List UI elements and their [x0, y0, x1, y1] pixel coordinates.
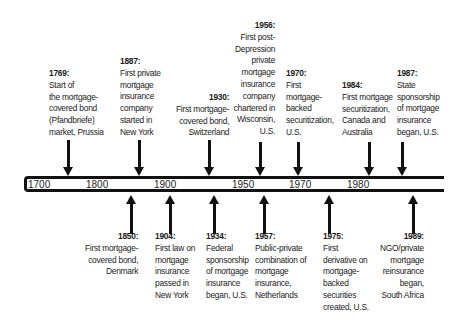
event-text-line: company: [120, 103, 161, 115]
event-text-line: New York: [120, 127, 161, 139]
tick-1950: 1950: [232, 178, 254, 190]
event-text-line: Switzerland: [176, 127, 229, 139]
arrow-down-icon: [297, 142, 300, 169]
event-text-line: Depression: [234, 44, 275, 56]
event-text-line: mortgage-: [323, 266, 369, 278]
arrow-up-icon: [328, 202, 331, 234]
arrow-up-icon: [263, 202, 266, 234]
arrow-up-icon: [412, 202, 415, 234]
event-1956: 1956: First post- Depression private mor…: [234, 20, 275, 138]
event-text-line: insurance: [234, 79, 275, 91]
arrow-up-icon: [213, 202, 216, 234]
event-text-line: First mortgage: [342, 92, 393, 104]
event-text-line: began, U.S.: [397, 127, 440, 139]
event-text-line: insurance,: [255, 278, 306, 290]
arrow-down-icon: [259, 142, 262, 169]
event-year: 1957:: [255, 231, 306, 243]
event-text-line: securities: [323, 290, 369, 302]
event-year: 1970:: [286, 68, 334, 80]
event-text-line: insurance: [206, 278, 249, 290]
event-1975: 1975: First derivative on mortgage- back…: [323, 231, 369, 314]
event-text-line: securitization,: [342, 104, 393, 116]
tick-1800: 1800: [86, 178, 108, 190]
event-text-line: passed in: [155, 278, 195, 290]
arrow-down-icon: [401, 142, 404, 169]
event-text-line: covered bond: [49, 103, 104, 115]
arrow-down-icon: [67, 140, 70, 169]
event-text-line: First: [323, 243, 369, 255]
tick-1900: 1900: [154, 178, 176, 190]
event-text-line: Federal: [206, 243, 249, 255]
arrow-up-icon: [130, 202, 133, 234]
event-text-line: backed: [286, 103, 334, 115]
event-year: 1975:: [323, 231, 369, 243]
event-1904: 1904: First law on mortgage insurance pa…: [155, 231, 195, 302]
event-text-line: began, U.S.: [206, 290, 249, 302]
tick-1970: 1970: [289, 178, 311, 190]
event-text-line: company: [234, 91, 275, 103]
event-1769: 1769: Start of the mortgage- covered bon…: [49, 68, 104, 139]
event-text-line: sponsorship: [397, 92, 440, 104]
event-text-line: insurance: [397, 115, 440, 127]
event-text-line: combination of: [255, 255, 306, 267]
event-1970: 1970: First mortgage- backed securitizat…: [286, 68, 334, 139]
event-text-line: of mortgage: [206, 266, 249, 278]
event-1850: 1850: First mortgage- covered bond, Denm…: [85, 231, 138, 278]
event-year: 1934:: [206, 231, 249, 243]
event-text-line: began,: [380, 278, 424, 290]
event-year: 1850:: [85, 231, 138, 243]
event-text-line: U.S.: [234, 126, 275, 138]
event-text-line: First post-: [234, 32, 275, 44]
event-text-line: sponsorship: [206, 255, 249, 267]
arrow-down-icon: [208, 140, 211, 169]
event-year: 1904:: [155, 231, 195, 243]
event-text-line: Canada and: [342, 115, 393, 127]
event-text-line: First private: [120, 68, 161, 80]
event-year: 1984:: [342, 80, 393, 92]
event-text-line: of mortgage: [397, 103, 440, 115]
event-text-line: chartered in: [234, 103, 275, 115]
event-1984: 1984: First mortgage securitization, Can…: [342, 80, 393, 139]
event-text-line: Denmark: [85, 266, 138, 278]
tick-1980: 1980: [347, 178, 369, 190]
event-text-line: Australia: [342, 127, 393, 139]
event-text-line: the mortgage-: [49, 92, 104, 104]
event-text-line: market, Prussia: [49, 127, 104, 139]
event-text-line: South Africa: [380, 290, 424, 302]
event-text-line: covered bond,: [85, 255, 138, 267]
event-1887: 1887: First private mortgage insurance c…: [120, 56, 161, 139]
event-text-line: mortgage-: [286, 92, 334, 104]
event-year: 1956:: [234, 20, 275, 32]
arrow-down-icon: [138, 140, 141, 169]
event-text-line: insurance: [155, 266, 195, 278]
event-1987: 1987: State sponsorship of mortgage insu…: [397, 68, 440, 139]
event-text-line: NGO/private: [380, 243, 424, 255]
event-text-line: First mortgage-: [85, 243, 138, 255]
event-text-line: Start of: [49, 80, 104, 92]
event-text-line: covered bond,: [176, 116, 229, 128]
event-year: 1930:: [176, 92, 229, 104]
event-text-line: First mortgage-: [176, 104, 229, 116]
event-text-line: mortgage: [255, 266, 306, 278]
arrow-up-icon: [169, 202, 172, 234]
event-1957: 1957: Public-private combination of mort…: [255, 231, 306, 302]
event-text-line: securitization,: [286, 115, 334, 127]
event-text-line: started in: [120, 115, 161, 127]
event-text-line: State: [397, 80, 440, 92]
arrow-down-icon: [368, 142, 371, 169]
event-year: 1887:: [120, 56, 161, 68]
event-text-line: created, U.S.: [323, 302, 369, 314]
event-text-line: reinsurance: [380, 266, 424, 278]
event-year: 1987:: [397, 68, 440, 80]
event-text-line: New York: [155, 290, 195, 302]
event-text-line: derivative on: [323, 255, 369, 267]
event-1934: 1934: Federal sponsorship of mortgage in…: [206, 231, 249, 302]
event-text-line: (Pfandbriefe): [49, 115, 104, 127]
event-text-line: private: [234, 55, 275, 67]
event-text-line: mortgage: [380, 255, 424, 267]
event-text-line: mortgage: [234, 67, 275, 79]
event-1930: 1930: First mortgage- covered bond, Swit…: [176, 92, 229, 139]
tick-1700: 1700: [28, 178, 50, 190]
event-text-line: insurance: [120, 91, 161, 103]
event-text-line: First law on: [155, 243, 195, 255]
